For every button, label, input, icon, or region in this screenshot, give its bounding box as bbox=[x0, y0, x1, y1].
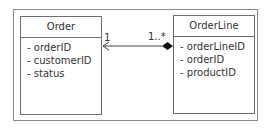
multiplicity-orderline: 1..* bbox=[148, 32, 166, 42]
multiplicity-order: 1 bbox=[104, 33, 110, 43]
composition-association bbox=[0, 0, 274, 128]
composition-diamond-icon bbox=[162, 42, 173, 50]
